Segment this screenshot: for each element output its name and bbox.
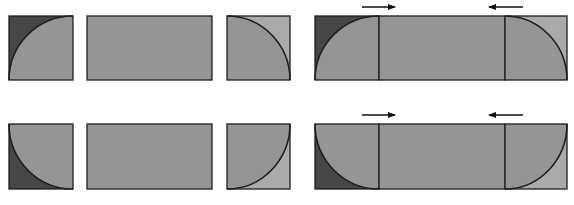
top-row-assembled-center (379, 16, 505, 80)
top-row-center-piece (87, 16, 212, 80)
bottom-row-center-piece (87, 124, 212, 189)
diagram-canvas (0, 0, 574, 205)
bottom-row-assembled-center (379, 124, 505, 189)
